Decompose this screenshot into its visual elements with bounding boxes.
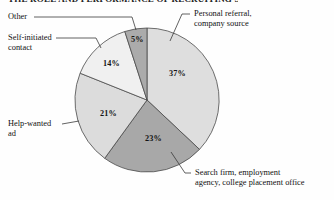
label-help-wanted-line2: ad [8,129,16,139]
leader-line-help-wanted [62,121,79,124]
value-label-help-wanted: 21% [100,109,117,118]
label-help-wanted-line1: Help-wanted [8,119,51,129]
pie-slices [75,28,219,172]
label-personal-referral-line2: company source [194,19,249,29]
pie-chart [0,0,334,200]
value-label-other: 5% [131,35,144,44]
value-label-self-initiated: 14% [103,59,120,68]
leader-line-self-initiated [56,38,101,48]
leader-line-other [34,17,136,30]
label-personal-referral-line1: Personal referral, [194,9,252,19]
figure-canvas: THE ROLE AND PERFORMANCE OF RECRUITING S… [0,0,334,200]
label-other: Other [8,12,27,22]
label-self-initiated-line2: contact [8,43,32,53]
value-label-personal-referral: 37% [169,69,186,78]
label-search-firm-line1: Search firm, employment [195,168,280,178]
label-search-firm-line2: agency, college placement office [195,178,305,188]
label-self-initiated-line1: Self-initiated [8,33,52,43]
value-label-search-firm: 23% [145,134,162,143]
